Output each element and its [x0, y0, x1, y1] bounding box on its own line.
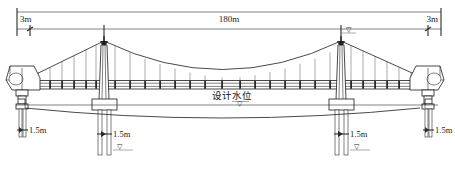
left-abutment-pile-1 [19, 109, 22, 137]
left-abutment-pier-cap [16, 90, 28, 96]
left-abutment: 1.5m [6, 66, 47, 137]
right-tower-bed-level-symbol: ▽ [354, 143, 360, 151]
dimension-left-approach-label: 3m [20, 14, 32, 24]
dimension-right-approach-label: 3m [426, 14, 438, 24]
left-tower-dim-label: 1.5m [113, 129, 131, 139]
tower-level-marker-right: ▽ [341, 26, 356, 34]
left-tower: 1.5m ▽ [92, 36, 133, 155]
design-water-level-label: 设计水位 [212, 90, 252, 101]
dimension-band: ▽ 3m 180m 3m [17, 8, 441, 41]
right-tower: 1.5m ▽ [329, 36, 370, 155]
right-abutment-pile-2 [429, 109, 432, 137]
dimension-main-span-label: 180m [219, 14, 240, 24]
cable-system [22, 41, 430, 82]
right-abutment-anchor-chamber [427, 73, 441, 85]
right-tower-dim-arrow [338, 131, 343, 137]
left-tower-pile-2 [107, 110, 111, 155]
left-abutment-pile-2 [23, 109, 26, 137]
bridge-deck [18, 81, 432, 90]
main-cable-center-span [104, 41, 341, 70]
design-water-level-symbol: ▽ [237, 100, 243, 108]
hangers-main-span [115, 46, 330, 82]
deck-slab [18, 81, 432, 90]
left-tower-bed-level-symbol: ▽ [117, 143, 123, 151]
bridge-elevation-drawing: ▽ 3m 180m 3m [0, 0, 455, 169]
left-tower-dim-arrow [101, 131, 106, 137]
right-abutment-pier-cap [422, 90, 434, 96]
hangers-right-side-span [351, 46, 411, 83]
tower-level-symbol-right: ▽ [346, 26, 352, 34]
water-and-riverbed: 设计水位 ▽ [16, 90, 438, 118]
left-abutment-anchor-chamber [9, 73, 23, 85]
right-tower-pile-2 [344, 110, 348, 155]
right-tower-shaft [336, 45, 346, 100]
left-tower-shaft [99, 45, 109, 100]
right-abutment-pile-1 [425, 109, 428, 137]
right-tower-dim-label: 1.5m [350, 129, 368, 139]
right-abutment: 1.5m [410, 66, 453, 137]
hangers-left-side-span [38, 45, 96, 82]
left-abutment-dim-label: 1.5m [29, 125, 47, 135]
right-tower-pier-cap [329, 99, 354, 110]
right-abutment-dim-label: 1.5m [435, 125, 453, 135]
left-tower-pier-cap [92, 99, 117, 110]
bridge-elevation-svg: ▽ 3m 180m 3m [0, 0, 455, 169]
riverbed-profile [25, 108, 420, 118]
